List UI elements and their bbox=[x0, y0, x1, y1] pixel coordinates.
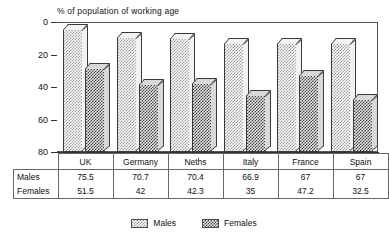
bar-uk-females bbox=[85, 68, 105, 152]
bar-side-face bbox=[265, 91, 271, 151]
table-cell-value: 35 bbox=[223, 184, 278, 199]
table-cell-value: 67 bbox=[278, 170, 333, 185]
legend-label: Males bbox=[153, 218, 176, 228]
bar-front-face bbox=[86, 69, 104, 151]
bar-side-face bbox=[372, 95, 378, 151]
bar-front-face bbox=[354, 100, 372, 151]
bar-spain-males bbox=[331, 43, 351, 152]
bar-italy-females bbox=[246, 95, 266, 152]
y-axis-label: 20 bbox=[38, 51, 48, 60]
table-corner-cell bbox=[14, 154, 59, 170]
bar-side-face bbox=[211, 79, 217, 151]
bar-front-face bbox=[278, 44, 296, 151]
table-cell-value: 42.3 bbox=[168, 184, 223, 199]
table-column-header: Neths bbox=[168, 154, 223, 170]
table-header-row: UKGermanyNethsItalyFranceSpain bbox=[14, 154, 389, 170]
bar-uk-males bbox=[63, 29, 83, 152]
y-axis-label: 40 bbox=[38, 83, 48, 92]
bar-side-face bbox=[318, 71, 324, 151]
legend-label: Females bbox=[224, 218, 257, 228]
legend-swatch-males bbox=[131, 219, 148, 228]
y-axis-label: 0 bbox=[43, 18, 48, 27]
legend-item-males: Males bbox=[131, 218, 176, 228]
table-cell-value: 66.9 bbox=[223, 170, 278, 185]
table-cell-value: 67 bbox=[333, 170, 388, 185]
table-row: Females51.54242.33547.232.5 bbox=[14, 184, 389, 199]
bar-front-face bbox=[247, 96, 265, 151]
table-cell-value: 75.5 bbox=[58, 170, 113, 185]
table-column-header: France bbox=[278, 154, 333, 170]
table-column-header: Italy bbox=[223, 154, 278, 170]
table-cell-value: 70.7 bbox=[113, 170, 168, 185]
bar-front-face bbox=[171, 39, 189, 151]
chart-title: % of population of working age bbox=[57, 6, 179, 16]
bar-front-face bbox=[300, 76, 318, 151]
y-axis-tick bbox=[51, 22, 57, 23]
bar-side-face bbox=[104, 64, 110, 151]
legend-item-females: Females bbox=[202, 218, 257, 228]
table-cell-value: 42 bbox=[113, 184, 168, 199]
bar-france-males bbox=[277, 43, 297, 152]
table-cell-value: 32.5 bbox=[333, 184, 388, 199]
legend-swatch-females bbox=[202, 219, 219, 228]
bar-germany-males bbox=[117, 37, 137, 152]
table-cell-value: 70.4 bbox=[168, 170, 223, 185]
y-axis-tick bbox=[51, 55, 57, 56]
bar-germany-females bbox=[139, 84, 159, 152]
bar-italy-males bbox=[224, 43, 244, 152]
bar-front-face bbox=[225, 44, 243, 151]
bar-front-face bbox=[140, 85, 158, 151]
table-column-header: UK bbox=[58, 154, 113, 170]
bar-neths-males bbox=[170, 38, 190, 152]
table-row-label: Males bbox=[14, 170, 59, 185]
chart-legend: MalesFemales bbox=[0, 218, 388, 228]
table-cell-value: 47.2 bbox=[278, 184, 333, 199]
table-cell-value: 51.5 bbox=[58, 184, 113, 199]
bar-france-females bbox=[299, 75, 319, 152]
bar-spain-females bbox=[353, 99, 373, 152]
bar-front-face bbox=[64, 30, 82, 151]
table-column-header: Germany bbox=[113, 154, 168, 170]
y-axis-label: 60 bbox=[38, 116, 48, 125]
bar-front-face bbox=[118, 38, 136, 151]
bar-top-face bbox=[139, 79, 164, 85]
table-row: Males75.570.770.466.96767 bbox=[14, 170, 389, 185]
y-axis-tick bbox=[51, 87, 57, 88]
bar-front-face bbox=[193, 84, 211, 151]
bar-side-face bbox=[158, 80, 164, 151]
y-axis-tick bbox=[51, 120, 57, 121]
bar-neths-females bbox=[192, 83, 212, 152]
bar-front-face bbox=[332, 44, 350, 151]
table-row-label: Females bbox=[14, 184, 59, 199]
data-table: UKGermanyNethsItalyFranceSpainMales75.57… bbox=[13, 153, 389, 199]
table-column-header: Spain bbox=[333, 154, 388, 170]
